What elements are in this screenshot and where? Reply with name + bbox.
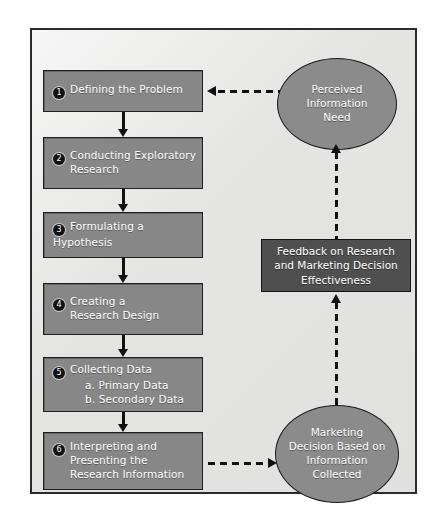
arrow-step1-step2 bbox=[118, 112, 129, 137]
process-box-3-text: 3Formulating a Hypothesis bbox=[44, 220, 202, 250]
process-box-3[interactable]: 3Formulating a Hypothesis bbox=[43, 212, 203, 258]
step-number-1: 1 bbox=[53, 87, 65, 99]
step-number-6: 6 bbox=[53, 444, 65, 456]
step-5-sub-a: a. Primary Data bbox=[53, 379, 184, 393]
process-box-6[interactable]: 6Interpreting and Presenting the Researc… bbox=[43, 432, 203, 490]
ellipse-perceived-information-need[interactable]: Perceived Information Need bbox=[277, 58, 397, 150]
step-label-1: Defining the Problem bbox=[70, 83, 183, 95]
process-box-5-text: 5Collecting Data a. Primary Data b. Seco… bbox=[44, 363, 184, 407]
arrowhead-to-decision bbox=[268, 458, 277, 468]
process-box-5[interactable]: 5Collecting Data a. Primary Data b. Seco… bbox=[43, 357, 203, 412]
dashed-decision-to-feedback bbox=[335, 302, 338, 406]
marketing-decision-text: Marketing Decision Based on Information … bbox=[289, 426, 386, 481]
step-number-5: 5 bbox=[53, 367, 65, 379]
diagram-frame: 1Defining the Problem 2Conducting Explor… bbox=[30, 28, 417, 494]
step-number-2: 2 bbox=[53, 153, 65, 165]
arrow-step2-step3 bbox=[118, 189, 129, 212]
dashed-need-to-step1 bbox=[218, 90, 280, 93]
process-box-1[interactable]: 1Defining the Problem bbox=[43, 70, 203, 112]
ellipse-marketing-decision[interactable]: Marketing Decision Based on Information … bbox=[275, 405, 399, 503]
arrowhead-to-need bbox=[331, 144, 341, 153]
step-label-6: Interpreting and Presenting the Research… bbox=[70, 440, 184, 482]
process-box-2[interactable]: 2Conducting Exploratory Research bbox=[43, 137, 203, 189]
step-label-3: Formulating a Hypothesis bbox=[53, 220, 144, 248]
arrowhead-to-step1 bbox=[207, 86, 216, 96]
perceived-need-text: Perceived Information Need bbox=[307, 83, 368, 125]
process-box-2-text: 2Conducting Exploratory Research bbox=[44, 149, 196, 177]
step-number-4: 4 bbox=[53, 299, 65, 311]
process-box-4[interactable]: 4Creating a Research Design bbox=[43, 283, 203, 335]
step-5-sub-b: b. Secondary Data bbox=[53, 393, 184, 407]
dashed-feedback-to-need bbox=[335, 152, 338, 240]
diagram-canvas: 1Defining the Problem 2Conducting Explor… bbox=[0, 0, 448, 521]
step-label-5: Collecting Data bbox=[70, 363, 152, 375]
arrow-step4-step5 bbox=[118, 335, 129, 357]
dashed-step6-to-decision bbox=[208, 462, 270, 465]
feedback-box-text: Feedback on Research and Marketing Decis… bbox=[274, 244, 397, 287]
arrowhead-to-feedback bbox=[331, 294, 341, 303]
process-box-4-text: 4Creating a Research Design bbox=[44, 295, 159, 323]
step-label-2: Conducting Exploratory Research bbox=[70, 149, 196, 177]
process-box-1-text: 1Defining the Problem bbox=[44, 83, 183, 99]
step-label-4: Creating a Research Design bbox=[70, 295, 159, 323]
arrow-step3-step4 bbox=[118, 258, 129, 283]
step-number-3: 3 bbox=[53, 224, 65, 236]
arrow-step5-step6 bbox=[118, 412, 129, 432]
feedback-box[interactable]: Feedback on Research and Marketing Decis… bbox=[261, 239, 411, 292]
process-box-6-text: 6Interpreting and Presenting the Researc… bbox=[44, 440, 184, 482]
